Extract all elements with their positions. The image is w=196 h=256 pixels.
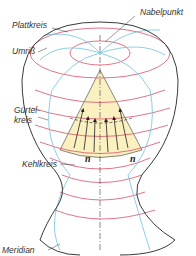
- label-kehlkreis: Kehlkreis: [22, 159, 58, 169]
- label-meridian: Meridian: [2, 245, 35, 255]
- tangent-cone: [60, 70, 142, 158]
- normal-label-left: n: [85, 153, 91, 164]
- label-umriss: Umriß: [12, 46, 35, 56]
- surface-of-revolution-diagram: n n Plattkreis Nabelpunkt Umriß Gürtel- …: [0, 0, 196, 256]
- label-guertelkreis-1: Gürtel-: [14, 105, 40, 115]
- normal-label-right: n: [130, 153, 136, 164]
- label-guertelkreis-2: kreis: [14, 115, 33, 125]
- label-nabelpunkt: Nabelpunkt: [140, 7, 184, 17]
- label-plattkreis: Plattkreis: [12, 20, 48, 30]
